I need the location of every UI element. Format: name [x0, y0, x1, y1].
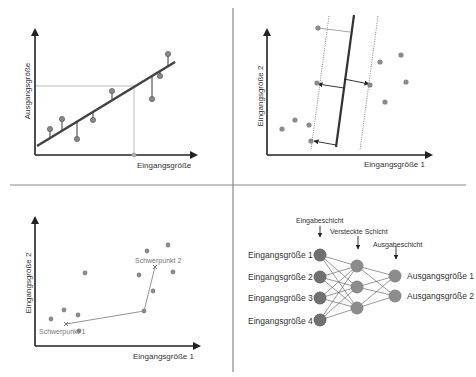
y-axis-label: Eingangsgröße 2 [24, 252, 33, 313]
centroid1-label: Schwerpunkt 1 [39, 328, 85, 336]
output-label-1: Ausgangsgröße 1 [407, 271, 474, 281]
data-points [47, 51, 170, 157]
x-axis-label: Eingangsgröße 1 [364, 160, 425, 169]
panel-clustering: Schwerpunkt 1 Schwerpunkt 2 Eingangsgröß… [24, 220, 197, 361]
output-layer-label: Ausgabeschicht [373, 241, 422, 249]
centroid2-label: Schwerpunkt 2 [135, 257, 181, 265]
input-label-4: Eingangsgröße 4 [248, 316, 313, 326]
output-node [389, 290, 402, 303]
output-nodes [389, 270, 402, 303]
hidden-layer-label: Versteckte Schicht [330, 228, 388, 235]
x-axis-label: Eingangsgröße [137, 161, 192, 170]
input-node [314, 292, 327, 305]
input-label-1: Eingangsgröße 1 [248, 250, 313, 260]
output-label-2: Ausgangsgröße 2 [407, 291, 474, 301]
panel-svm: Eingangsgröße 2 Eingangsgröße 1 [256, 15, 429, 169]
hyperplane [336, 15, 354, 147]
input-nodes [314, 249, 327, 327]
hidden-node [351, 260, 364, 273]
regression-line [37, 62, 175, 146]
quadrant-dividers [10, 8, 466, 372]
input-node [314, 249, 327, 262]
support-vector-arrows [314, 28, 369, 145]
input-node [314, 271, 327, 284]
input-layer-label: Eingabeschicht [296, 217, 344, 225]
x-axis-label: Eingangsgröße 1 [133, 352, 194, 361]
panel-neural-network: Eingabeschicht Versteckte Schicht Ausgab… [248, 217, 474, 327]
input-label-2: Eingangsgröße 2 [248, 272, 313, 282]
panel-regression: Ausgangsgröße Eingangsgröße [23, 32, 194, 170]
input-node [314, 314, 327, 327]
hidden-nodes [351, 260, 364, 315]
output-node [389, 270, 402, 283]
diagram-canvas: Ausgangsgröße Eingangsgröße [0, 0, 476, 377]
hidden-node [351, 302, 364, 315]
margin-left [311, 16, 329, 150]
y-axis-label: Eingangsgröße 2 [256, 65, 265, 126]
input-label-3: Eingangsgröße 3 [248, 293, 313, 303]
hidden-node [351, 281, 364, 294]
y-axis-label: Ausgangsgröße [23, 62, 32, 119]
